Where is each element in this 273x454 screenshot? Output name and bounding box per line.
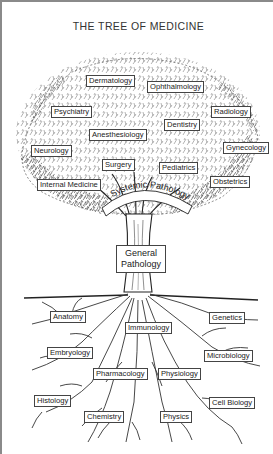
general-pathology-line1: General xyxy=(120,248,162,259)
general-pathology-line2: Pathology xyxy=(120,259,162,270)
label-histology: Histology xyxy=(34,395,71,407)
label-obstetrics: Obstetrics xyxy=(210,176,250,188)
label-anesthesiology: Anesthesiology xyxy=(89,129,147,141)
label-gynecology: Gynecology xyxy=(223,142,269,154)
label-anatomy: Anatomy xyxy=(50,311,86,323)
label-immunology: Immunology xyxy=(125,322,172,334)
label-ophthalmology: Ophthalmology xyxy=(147,81,204,93)
ground-line xyxy=(24,295,258,300)
label-pediatrics: Pediatrics xyxy=(159,162,198,174)
label-physics: Physics xyxy=(160,411,192,423)
label-embryology: Embryology xyxy=(47,347,93,359)
label-dermatology: Dermatology xyxy=(86,75,135,87)
label-surgery: Surgery xyxy=(102,159,135,171)
label-cell-biology: Cell Biology xyxy=(209,397,255,409)
label-psychiatry: Psychiatry xyxy=(51,106,92,118)
label-microbiology: Microbiology xyxy=(204,350,253,362)
label-general-pathology: General Pathology xyxy=(116,245,166,273)
label-internal-medicine: Internal Medicine xyxy=(37,179,101,191)
label-chemistry: Chemistry xyxy=(84,411,124,423)
label-pharmacology: Pharmacology xyxy=(93,368,148,380)
label-genetics: Genetics xyxy=(209,312,245,324)
label-dentistry: Dentistry xyxy=(164,119,200,131)
label-radiology: Radiology xyxy=(211,106,251,118)
diagram-frame: THE TREE OF MEDICINE xyxy=(0,0,273,454)
label-neurology: Neurology xyxy=(31,145,72,157)
tree-illustration: Systemic Pathology xyxy=(2,2,273,454)
label-physiology: Physiology xyxy=(158,368,201,380)
